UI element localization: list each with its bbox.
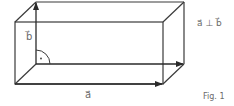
- vector-a-label: a⃗: [85, 89, 91, 100]
- vector-b-label: b⃗: [25, 30, 33, 42]
- right-angle-dot: [40, 58, 42, 60]
- right-angle-arc: [36, 50, 50, 64]
- perpendicular-relation: a⃗ ⊥ b⃗: [197, 17, 222, 28]
- cuboid-edges: [15, 2, 184, 84]
- bottom-right-depth-edge: [163, 64, 184, 84]
- top-left-depth-edge: [15, 2, 36, 22]
- figure-caption: Fig. 1: [203, 92, 225, 101]
- top-right-depth-edge: [163, 2, 184, 22]
- cuboid-diagram: b⃗ a⃗ a⃗ ⊥ b⃗ Fig. 1: [0, 0, 234, 106]
- front-face: [15, 22, 163, 84]
- bottom-left-depth-edge: [15, 64, 36, 84]
